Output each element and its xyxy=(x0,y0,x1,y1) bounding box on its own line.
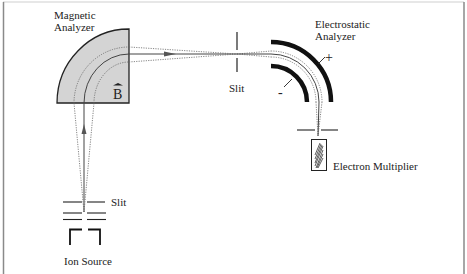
minus-label: - xyxy=(278,85,283,100)
electrostatic-analyzer-label-1: Electrostatic xyxy=(315,18,370,30)
ion-source xyxy=(70,230,100,246)
electron-multiplier xyxy=(312,140,327,171)
electrostatic-analyzer-label-2: Analyzer xyxy=(315,30,356,42)
magnetic-analyzer-label-1: Magnetic xyxy=(54,9,96,21)
slit-label-source: Slit xyxy=(111,196,126,208)
frame xyxy=(3,2,464,274)
plus-label: + xyxy=(325,50,333,65)
magnetic-analyzer-label-2: Analyzer xyxy=(54,21,95,33)
electron-multiplier-label: Electron Multiplier xyxy=(333,160,418,172)
magnetic-field-symbol: B xyxy=(113,87,122,102)
negative-plate xyxy=(271,66,307,102)
ion-source-label: Ion Source xyxy=(64,255,112,267)
slit-label-middle: Slit xyxy=(229,82,244,94)
diagram-canvas: Magnetic Analyzer B Slit Electrostatic A… xyxy=(0,0,467,274)
